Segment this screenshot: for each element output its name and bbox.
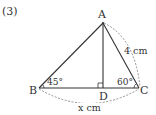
point-label-a: A [98, 9, 106, 20]
angle-arc-c [134, 84, 137, 88]
angle-label-c: 60° [117, 78, 133, 87]
point-label-b: B [29, 85, 37, 96]
angle-label-b: 45° [47, 78, 63, 87]
right-angle-marker [98, 83, 103, 88]
vertex-a-dot [102, 22, 104, 24]
length-label-ac: 4 cm [124, 46, 147, 56]
triangle-diagram [0, 0, 156, 115]
length-label-bc: x cm [77, 103, 102, 113]
point-label-c: C [140, 85, 148, 96]
point-label-d: D [99, 91, 108, 102]
